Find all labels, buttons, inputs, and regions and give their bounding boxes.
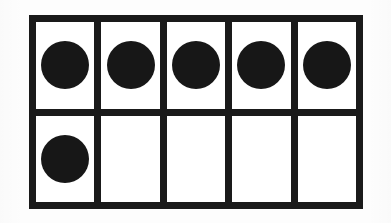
- ten-frame-cell-5[interactable]: [298, 22, 356, 109]
- ten-frame-cell-6[interactable]: [36, 116, 94, 203]
- ten-frame-row-bottom: [36, 116, 356, 203]
- ten-frame-cell-4[interactable]: [232, 22, 290, 109]
- ten-frame-cell-7[interactable]: [101, 116, 159, 203]
- counter-dot-3[interactable]: [172, 41, 220, 89]
- counter-dot-4[interactable]: [237, 41, 285, 89]
- counter-dot-2[interactable]: [107, 41, 155, 89]
- ten-frame-figure: A ten frame with six black counters fill…: [0, 0, 391, 223]
- ten-frame-cell-9[interactable]: [232, 116, 290, 203]
- counter-dot-1[interactable]: [41, 41, 89, 89]
- counter-dot-5[interactable]: [303, 41, 351, 89]
- counter-dot-6[interactable]: [41, 135, 89, 183]
- ten-frame-cell-10[interactable]: [298, 116, 356, 203]
- ten-frame-row-top: [36, 22, 356, 109]
- ten-frame-grid: [29, 15, 363, 209]
- ten-frame-cell-8[interactable]: [167, 116, 225, 203]
- ten-frame-cell-2[interactable]: [101, 22, 159, 109]
- figure-description: A ten frame with six black counters fill…: [0, 0, 1, 1]
- ten-frame-cell-1[interactable]: [36, 22, 94, 109]
- ten-frame-cell-3[interactable]: [167, 22, 225, 109]
